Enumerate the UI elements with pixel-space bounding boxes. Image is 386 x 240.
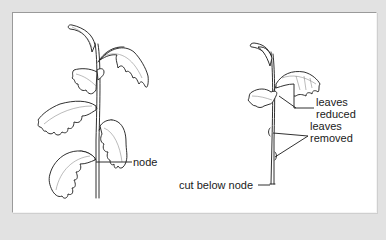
leaves-reduced-label-line2: reduced — [316, 108, 356, 120]
node-label: node — [133, 156, 157, 168]
leaves-removed-label-line1: leaves — [310, 120, 342, 132]
right-plant-cutting-illustration — [248, 43, 320, 185]
leaves-removed-label-line2: removed — [310, 132, 353, 144]
cut-below-node-label: cut below node — [179, 179, 253, 191]
leaves-reduced-label-line1: leaves — [316, 96, 348, 108]
left-plant-illustration — [38, 25, 148, 198]
